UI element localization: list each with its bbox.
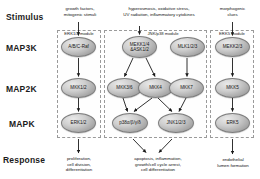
stimulus-growth-factors: growth factors, mitogenic stimuli: [57, 6, 103, 17]
node-erk5[interactable]: ERK5: [215, 113, 250, 133]
node-mekk1-4-ask1-2[interactable]: MEKK1/4 &ASK1/2: [122, 36, 157, 58]
response-lumen-formation: endothelial lumen formation: [208, 157, 258, 168]
stimulus-morphogenic: morphogenic clues: [209, 6, 256, 17]
module-label-erk12: ERK1/2 module: [58, 31, 100, 36]
module-label-jnkp38: JNK/p38 module: [134, 31, 192, 36]
response-proliferation: proliferation, cell division, differenti…: [54, 156, 104, 173]
row-label-response: Response: [3, 155, 45, 165]
node-mkk5[interactable]: MKK5: [215, 78, 250, 98]
response-apoptosis: apoptosis, inflammation, growth/cell cyc…: [112, 156, 204, 173]
stimulus-stress: hyperosmosis, oxidative stress, UV radia…: [112, 6, 206, 17]
row-label-map2k: MAP2K: [6, 84, 37, 94]
node-mkk3-6[interactable]: MKK3/6: [107, 78, 142, 98]
module-label-erk5: ERK5 module: [211, 31, 253, 36]
node-erk1-2[interactable]: ERK1/2: [61, 113, 96, 133]
node-p38[interactable]: p38α/β/γ/δ: [112, 113, 148, 133]
node-mekk2-3[interactable]: MEKK2/3: [215, 37, 250, 57]
row-label-mapk: MAPK: [9, 119, 35, 129]
row-label-map3k: MAP3K: [6, 43, 37, 53]
node-mkk1-2[interactable]: MKK1/2: [61, 78, 96, 98]
arrow-p38-to-response: [133, 139, 146, 153]
arrow-jnk-to-response: [159, 139, 172, 153]
node-a-b-c-raf[interactable]: A/B/C-Raf: [61, 37, 96, 57]
node-mkk4[interactable]: MKK4: [138, 78, 173, 98]
pathway-diagram: Stimulus MAP3K MAP2K MAPK Response ERK1/…: [0, 0, 260, 179]
node-jnk1-2-3[interactable]: JNK1/2/3: [158, 113, 194, 133]
row-label-stimulus: Stimulus: [6, 12, 44, 22]
node-mlk1-2-3[interactable]: MLK1/2/3: [170, 37, 205, 57]
node-mkk7[interactable]: MKK7: [169, 78, 204, 98]
